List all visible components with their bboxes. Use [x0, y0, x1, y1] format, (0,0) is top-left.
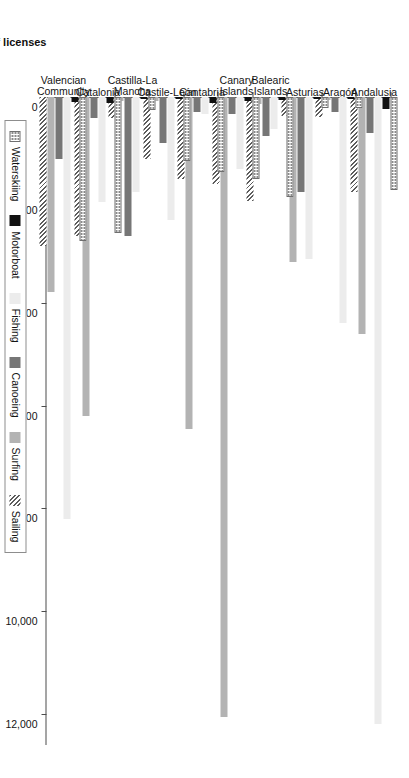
surfing-swatch-icon — [10, 432, 21, 443]
bar — [124, 97, 131, 236]
legend-item-sailing[interactable]: Sailing — [9, 495, 21, 543]
bar — [236, 97, 243, 169]
bar — [71, 97, 78, 102]
bar — [297, 97, 304, 192]
bar — [366, 97, 373, 133]
legend-label: Waterskiing — [9, 147, 21, 201]
bar — [55, 97, 62, 159]
chart-legend: WaterskiingMotorboatFishingCanoeingSurfi… — [4, 120, 26, 553]
bar — [358, 97, 365, 334]
bar — [321, 97, 328, 108]
bar — [140, 97, 147, 99]
bar — [63, 97, 70, 519]
bar — [201, 97, 208, 114]
legend-label: Motorboat — [9, 231, 21, 278]
category-axis-tick-label: Valencian Community — [27, 75, 99, 97]
bar — [217, 97, 224, 172]
legend-item-surfing[interactable]: Surfing — [9, 432, 21, 481]
bar — [374, 97, 381, 724]
bar — [339, 97, 346, 323]
bar — [390, 97, 397, 190]
bar — [305, 97, 312, 259]
legend-item-fishing[interactable]: Fishing — [9, 293, 21, 343]
value-axis-tick — [41, 303, 46, 304]
sailing-swatch-icon — [10, 495, 21, 506]
canoeing-swatch-icon — [10, 357, 21, 368]
value-axis-tick — [41, 508, 46, 509]
bar — [39, 97, 46, 246]
legend-item-canoeing[interactable]: Canoeing — [9, 357, 21, 418]
bar — [228, 97, 235, 114]
bar — [148, 97, 155, 110]
bar — [175, 97, 182, 99]
legend-item-motorboat[interactable]: Motorboat — [9, 215, 21, 278]
bar — [106, 97, 113, 103]
legend-item-waterskiing[interactable]: Waterskiing — [9, 131, 21, 201]
bar — [355, 97, 362, 108]
fishing-swatch-icon — [10, 293, 21, 304]
bar — [90, 97, 97, 118]
bar — [114, 97, 121, 233]
waterskiing-swatch-icon — [10, 131, 21, 142]
bar — [350, 97, 357, 192]
bar — [98, 97, 105, 202]
legend-label: Sailing — [9, 511, 21, 543]
legend-label: Fishing — [9, 309, 21, 343]
bar — [220, 97, 227, 717]
value-axis-title: Number of licenses — [0, 36, 46, 48]
value-axis-tick-label: 0 — [31, 101, 37, 113]
bar — [193, 97, 200, 112]
bar — [79, 97, 86, 241]
bar — [209, 97, 216, 103]
value-axis-tick-label: 10,000 — [5, 615, 37, 627]
bar — [159, 97, 166, 143]
bar — [252, 97, 259, 179]
bar — [47, 97, 54, 292]
value-axis-tick — [41, 611, 46, 612]
legend-label: Surfing — [9, 448, 21, 481]
bar — [331, 97, 338, 112]
bar — [382, 97, 389, 109]
bar — [244, 97, 251, 101]
bar — [132, 97, 139, 192]
value-axis-tick — [41, 714, 46, 715]
bar-chart-plot-area: 02,0004,0006,0008,00010,00012,000 Andalu… — [0, 0, 409, 778]
motorboat-swatch-icon — [10, 215, 21, 226]
bar — [167, 97, 174, 220]
bar — [262, 97, 269, 136]
value-axis-tick-label: 12,000 — [5, 718, 37, 730]
bar — [270, 97, 277, 129]
bar — [286, 97, 293, 197]
bar — [347, 97, 354, 99]
legend-label: Canoeing — [9, 373, 21, 418]
chart-stage: 02,0004,0006,0008,00010,00012,000 Andalu… — [0, 0, 409, 778]
value-axis-tick — [41, 406, 46, 407]
bar — [183, 97, 190, 161]
bar — [278, 97, 285, 100]
bar — [313, 97, 320, 99]
